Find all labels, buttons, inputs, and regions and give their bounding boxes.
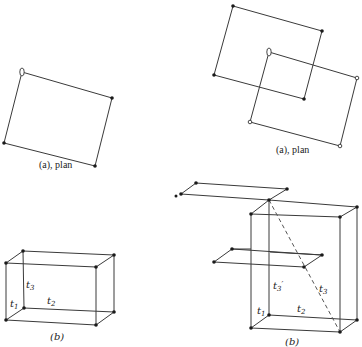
left-box bbox=[4, 195, 177, 327]
right-box-label-t1: t1 bbox=[257, 305, 266, 318]
ellipse-marker-icon bbox=[267, 48, 271, 56]
ellipse-marker-icon bbox=[20, 68, 24, 76]
right-plan-caption: (a), plan bbox=[276, 144, 309, 156]
right-box-upper-plane bbox=[179, 181, 289, 200]
right-box-label-t3-prime: t3′ bbox=[273, 279, 284, 293]
right-box-label-t2: t2 bbox=[297, 303, 306, 316]
left-plan-caption: (a), plan bbox=[39, 159, 72, 171]
diagram-canvas: (a), plan (a), plan bbox=[0, 0, 362, 347]
left-box-label-t2: t2 bbox=[47, 295, 56, 308]
right-plan-vertices bbox=[212, 4, 359, 148]
left-box-label-t3: t3 bbox=[26, 279, 35, 292]
right-box-label-t3: t3 bbox=[319, 283, 328, 296]
right-box-middle-plane bbox=[212, 247, 324, 269]
left-plan-square bbox=[2, 68, 114, 168]
left-box-label-t1: t1 bbox=[10, 298, 19, 311]
left-box-caption: (b) bbox=[50, 331, 64, 342]
right-box-caption: (b) bbox=[285, 336, 299, 347]
